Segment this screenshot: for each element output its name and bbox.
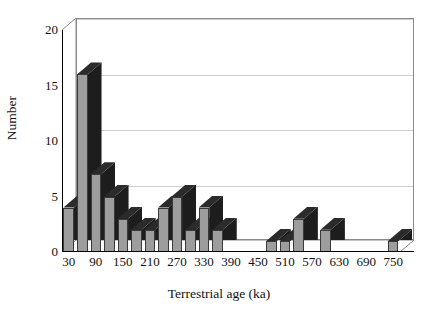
bar-face: [158, 208, 169, 252]
bar-face: [63, 208, 74, 252]
bar-face: [320, 230, 331, 252]
histogram-chart: Number 05101520 309015021027033039045051…: [0, 0, 438, 313]
y-axis-line: [62, 30, 63, 252]
x-axis-tick-labels: 3090150210270330390450510570630690750: [62, 254, 422, 274]
x-axis-title: Terrestrial age (ka): [0, 286, 438, 302]
bar-face: [172, 197, 183, 253]
bar-face: [145, 230, 156, 252]
y-tick-label: 5: [52, 189, 59, 205]
bar-face: [293, 219, 304, 252]
y-tick-label: 10: [45, 133, 58, 149]
bar-face: [185, 230, 196, 252]
x-tick-label: 690: [356, 254, 376, 270]
x-tick-label: 30: [62, 254, 75, 270]
y-tick-label: 15: [45, 78, 58, 94]
bar-face: [104, 197, 115, 253]
bar-face: [91, 174, 102, 252]
bar-face: [118, 219, 129, 252]
x-axis-line: [62, 251, 414, 252]
x-tick-label: 150: [113, 254, 133, 270]
y-tick-label: 0: [52, 244, 59, 260]
bar-750: [388, 227, 413, 252]
y-axis-title: Number: [4, 78, 20, 158]
x-tick-label: 570: [302, 254, 322, 270]
x-tick-label: 270: [167, 254, 187, 270]
bar-face: [212, 230, 223, 252]
bar-face: [131, 230, 142, 252]
x-tick-label: 630: [329, 254, 349, 270]
bar-face: [199, 208, 210, 252]
bar-face: [77, 74, 88, 252]
x-tick-label: 390: [221, 254, 241, 270]
bars-layer: [62, 18, 414, 252]
x-tick-label: 510: [275, 254, 295, 270]
y-tick-label: 20: [45, 22, 58, 38]
plot-area: [62, 18, 414, 252]
x-tick-label: 450: [248, 254, 268, 270]
x-tick-label: 90: [89, 254, 102, 270]
y-axis-tick-labels: 05101520: [24, 18, 58, 252]
x-tick-label: 330: [194, 254, 214, 270]
x-tick-label: 750: [383, 254, 403, 270]
x-tick-label: 210: [140, 254, 160, 270]
